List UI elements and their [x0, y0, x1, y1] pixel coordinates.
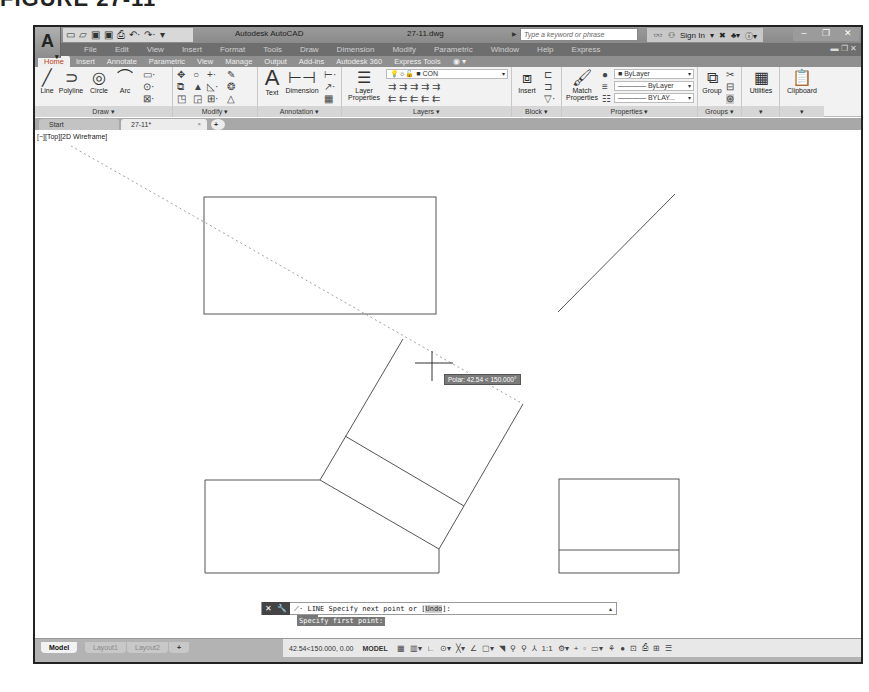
line-tool[interactable]: ╱Line [37, 69, 57, 94]
ribbon-toggle-button[interactable]: ◉ ▾ [447, 56, 472, 67]
rotate-icon[interactable]: ○ [193, 70, 199, 80]
group-button[interactable]: ⧉Group [700, 69, 724, 94]
isolate-icon[interactable]: ⚘ [608, 644, 615, 653]
help-icon[interactable]: ⓘ▾ [745, 30, 757, 41]
color-dropdown[interactable]: ■ ByLayer▾ [614, 69, 694, 79]
annotation-visibility-icon[interactable]: ⚲ [521, 644, 527, 653]
polar-icon[interactable]: ⊙▾ [440, 644, 451, 653]
new-tab-button[interactable]: + [211, 119, 225, 130]
fillet-icon[interactable]: ◺· [207, 82, 218, 92]
drawing-canvas[interactable]: [−][Top][2D Wireframe] [35, 130, 861, 638]
grid-icon[interactable]: ▦ [397, 644, 405, 653]
ortho-icon[interactable]: ∟ [427, 644, 435, 653]
binoculars-icon[interactable]: 👓 [653, 31, 663, 40]
ellipse-icon[interactable]: ⊙· [143, 82, 154, 92]
workspace-icon[interactable]: ⚙▾ [558, 644, 569, 653]
command-history-dropdown-icon[interactable]: ▴ [609, 605, 616, 612]
ungroup-icon[interactable]: ✂ [726, 70, 734, 80]
layers-panel-title[interactable]: Layers ▾ [342, 106, 511, 117]
linear-dim-icon[interactable]: ⊢· [324, 70, 336, 80]
maximize-button[interactable]: ❐ [815, 27, 837, 41]
group-selection-icon[interactable]: ⊛ [726, 94, 734, 104]
isodraft-icon[interactable]: ╳▾ [456, 644, 465, 653]
annotation-autoscale-icon[interactable]: ⅄ [532, 644, 537, 653]
utilities-button[interactable]: ▦Utilities [744, 69, 778, 94]
copy-icon[interactable]: ⧉ [177, 82, 184, 92]
model-space-toggle[interactable]: MODEL [362, 645, 387, 652]
menu-view[interactable]: View [138, 43, 173, 56]
menu-help[interactable]: Help [528, 43, 562, 56]
menu-insert[interactable]: Insert [173, 43, 211, 56]
customize-status-icon[interactable]: ☰ [665, 644, 672, 653]
tab-annotate[interactable]: Annotate [101, 56, 143, 67]
drawing-window-controls[interactable]: ▬ ❐ ✕ [831, 43, 857, 55]
lineweight-dropdown[interactable]: ———— BYLAY...▾ [614, 93, 694, 103]
move-icon[interactable]: ✥ [177, 70, 185, 80]
layer-tools-row1-icon[interactable]: ⇉⇉⇉⇉⇉ [388, 82, 443, 92]
undo-icon[interactable]: ↶· [129, 29, 140, 41]
groups-panel-title[interactable]: Groups ▾ [698, 106, 741, 117]
sign-in-button[interactable]: Sign In [680, 31, 705, 40]
layer-dropdown[interactable]: 💡☼🔓 ■ CON▾ [386, 69, 508, 79]
menu-format[interactable]: Format [211, 43, 254, 56]
redo-icon[interactable]: ↷· [144, 29, 155, 41]
tab-layout1[interactable]: Layout1 [85, 642, 126, 653]
menu-draw[interactable]: Draw [291, 43, 328, 56]
tab-insert[interactable]: Insert [70, 56, 101, 67]
open-icon[interactable]: ▱ [79, 29, 87, 41]
annotation-scale-dropdown[interactable]: 1:1 [542, 644, 553, 653]
print-icon[interactable]: ⎙ [642, 643, 648, 653]
command-line[interactable]: ✕ 🔧 ⟋· LINE Specify next point or [Undo]… [261, 602, 617, 615]
tab-model[interactable]: Model [41, 642, 77, 653]
search-expand-icon[interactable]: ▶ [512, 30, 517, 37]
layer-tools-row2-icon[interactable]: ⇇⇇⇇⇇⇇ [388, 94, 443, 104]
close-button[interactable]: ✕ [837, 27, 859, 41]
menu-file[interactable]: File [75, 43, 106, 56]
menu-dimension[interactable]: Dimension [328, 43, 384, 56]
lineweight-toggle-icon[interactable]: ◥ [499, 644, 505, 653]
customize-icon[interactable]: ▾ [160, 29, 165, 41]
stretch-icon[interactable]: ◳ [177, 94, 186, 104]
menu-tools[interactable]: Tools [254, 43, 291, 56]
table-icon[interactable]: ▦ [324, 94, 333, 104]
create-block-icon[interactable]: ⊏ [544, 70, 552, 80]
otrack-icon[interactable]: ▢▾ [482, 644, 494, 653]
menu-edit[interactable]: Edit [106, 43, 138, 56]
circle-tool[interactable]: ◎Circle [87, 69, 111, 94]
units-icon[interactable]: ▫ [583, 644, 586, 653]
save-icon[interactable]: ▣ [91, 29, 100, 41]
menu-express[interactable]: Express [563, 43, 610, 56]
osnap-icon[interactable]: ∠ [470, 644, 477, 653]
tab-layout2[interactable]: Layout2 [127, 642, 168, 653]
exchange-icon[interactable]: ✖ [719, 31, 726, 40]
dropdown-icon[interactable]: ▾ [710, 31, 714, 40]
explode-icon[interactable]: ❂ [227, 82, 235, 92]
menu-modify[interactable]: Modify [383, 43, 425, 56]
draw-panel-title[interactable]: Draw ▾ [35, 106, 172, 117]
close-command-icon[interactable]: ✕ [265, 604, 272, 613]
clean-screen-icon[interactable]: ⊡ [630, 644, 637, 653]
modify-panel-title[interactable]: Modify ▾ [173, 106, 257, 117]
tab-manage[interactable]: Manage [219, 56, 258, 67]
plus-icon[interactable]: + [574, 644, 579, 653]
clipboard-panel-title[interactable]: ▾ [780, 106, 824, 117]
new-icon[interactable]: ▭ [66, 29, 75, 41]
attribute-icon[interactable]: ▽· [544, 94, 555, 104]
new-layout-button[interactable]: + [169, 642, 189, 653]
tab-express-tools[interactable]: Express Tools [388, 56, 447, 67]
block-panel-title[interactable]: Block ▾ [512, 106, 561, 117]
tab-view[interactable]: View [191, 56, 219, 67]
leader-icon[interactable]: ↗· [324, 82, 335, 92]
dimension-tool[interactable]: ⊢⊣Dimension [284, 69, 320, 94]
transparency-icon[interactable]: ⚲ [510, 644, 516, 653]
menu-window[interactable]: Window [482, 43, 528, 56]
match-properties-button[interactable]: 🖌Match Properties [564, 69, 600, 101]
text-tool[interactable]: AText [262, 67, 282, 96]
application-menu-button[interactable]: A▾ [35, 27, 61, 58]
customize-command-icon[interactable]: 🔧 [277, 604, 287, 613]
undo-option[interactable]: Undo [425, 605, 442, 613]
array-icon[interactable]: ⊞· [207, 94, 218, 104]
trim-icon[interactable]: +· [207, 70, 216, 80]
a360-icon[interactable]: ♣▾ [731, 31, 740, 40]
erase-icon[interactable]: ✎ [227, 70, 235, 80]
